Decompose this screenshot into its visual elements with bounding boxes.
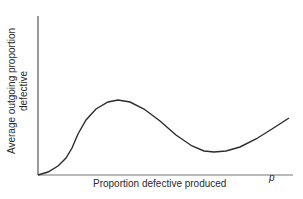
aoq-curve (38, 100, 289, 175)
x-variable-label: p (269, 172, 275, 183)
y-axis-label-line1: Average outgoing proportion (6, 28, 18, 154)
x-axis-label: Proportion defective produced (93, 178, 226, 189)
chart-plot-area (0, 0, 303, 199)
y-axis-label: Average outgoing proportion defective (1, 16, 35, 166)
y-axis-label-line2: defective (18, 28, 30, 154)
